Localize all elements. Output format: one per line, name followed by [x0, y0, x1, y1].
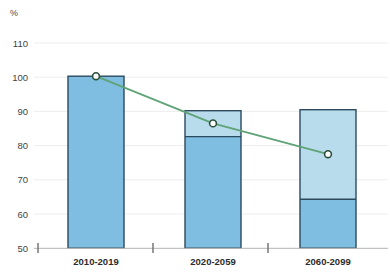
data-point-marker [325, 151, 332, 158]
bar-group-2060-2099 [300, 110, 356, 249]
stacked-bar-chart-with-trend-line: 110 100 90 80 70 60 50 [0, 0, 390, 278]
y-tick-label: 90 [17, 106, 28, 117]
x-category-label: 2020-2059 [190, 256, 235, 267]
data-point-marker [93, 73, 100, 80]
chart-container: % 110 100 90 80 70 60 50 [0, 0, 390, 278]
y-tick-label: 110 [13, 38, 28, 49]
x-axis-category-labels: 2010-2019 2020-2059 2060-2099 [73, 256, 350, 267]
bar-group-2010-2019 [68, 76, 124, 248]
y-tick-label: 80 [17, 140, 28, 151]
y-tick-label: 100 [12, 72, 28, 83]
x-category-label: 2010-2019 [73, 256, 118, 267]
y-tick-label: 50 [17, 243, 28, 254]
bar-lower-segment [68, 76, 124, 248]
y-axis-tick-labels: 110 100 90 80 70 60 50 [12, 38, 28, 254]
bar-group-2020-2059 [185, 111, 241, 249]
x-category-label: 2060-2099 [305, 256, 350, 267]
y-tick-label: 60 [17, 209, 28, 220]
y-tick-label: 70 [17, 174, 28, 185]
data-point-marker [210, 120, 217, 127]
bar-lower-segment [300, 199, 356, 248]
bar-lower-segment [185, 137, 241, 249]
